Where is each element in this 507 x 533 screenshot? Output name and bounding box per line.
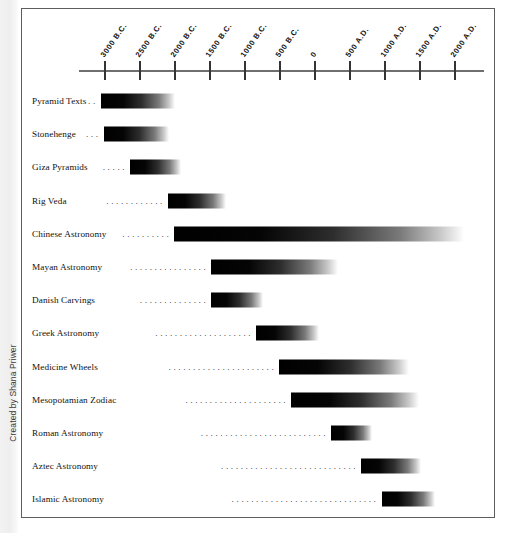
axis-tick: [104, 61, 106, 80]
axis-tick-label: 2500 B.C.: [134, 21, 164, 59]
timeline-chart-frame: 3000 B.C.2500 B.C.2000 B.C.1500 B.C.1000…: [21, 8, 495, 518]
timeline-row[interactable]: Roman Astronomy.........................…: [22, 423, 496, 443]
timeline-row-label: Giza Pyramids: [32, 162, 88, 172]
axis-tick-label-wrap: 1000 A.D.: [386, 9, 387, 59]
timeline-leader-dots: ..: [88, 97, 98, 106]
timeline-row-label: Mayan Astronomy: [32, 262, 102, 272]
timeline-row[interactable]: Mayan Astronomy................: [22, 257, 496, 277]
timeline-leader-dots: ..............................: [232, 495, 379, 504]
axis-tick-label: 1000 B.C.: [239, 21, 269, 59]
timeline-bar[interactable]: [211, 293, 263, 308]
timeline-leader-dots: ................: [130, 263, 208, 272]
timeline-leader-dots: ..........................: [201, 429, 328, 438]
axis-tick-label: 2000 A.D.: [449, 22, 479, 59]
timeline-bar[interactable]: [104, 127, 169, 142]
timeline-row[interactable]: Danish Carvings..............: [22, 290, 496, 310]
timeline-row-label: Pyramid Texts: [32, 96, 86, 106]
timeline-row[interactable]: Rig Veda............: [22, 191, 496, 211]
timeline-bar[interactable]: [331, 426, 372, 441]
axis-tick-label-wrap: 2000 A.D.: [456, 9, 457, 59]
timeline-bar[interactable]: [361, 459, 421, 474]
axis-tick: [384, 61, 386, 80]
axis-tick-label-wrap: 2000 B.C.: [176, 9, 177, 59]
timeline-row[interactable]: Chinese Astronomy..........: [22, 224, 496, 244]
timeline-row[interactable]: Giza Pyramids.....: [22, 157, 496, 177]
axis-tick: [314, 61, 316, 80]
timeline-row-label: Stonehenge: [32, 129, 76, 139]
axis-tick-label: 500 A.D.: [344, 26, 371, 59]
timeline-leader-dots: ..........: [122, 229, 171, 238]
timeline-row-label: Aztec Astronomy: [32, 461, 98, 471]
axis-tick-label: 1500 B.C.: [204, 21, 234, 59]
axis-tick-label-wrap: 3000 B.C.: [106, 9, 107, 59]
axis-tick-label-wrap: 500 A.D.: [351, 9, 352, 59]
timeline-leader-dots: .....: [103, 163, 127, 172]
axis-tick-label: 1500 A.D.: [414, 22, 444, 59]
timeline-leader-dots: ............: [106, 196, 165, 205]
axis-tick: [349, 61, 351, 80]
timeline-rows: Pyramid Texts..Stonehenge...Giza Pyramid…: [22, 81, 496, 517]
timeline-bar[interactable]: [291, 392, 419, 407]
timeline-row[interactable]: Medicine Wheels......................: [22, 357, 496, 377]
axis-tick: [454, 61, 456, 80]
timeline-row[interactable]: Islamic Astronomy.......................…: [22, 489, 496, 509]
timeline-row-label: Islamic Astronomy: [32, 494, 104, 504]
axis-tick: [279, 61, 281, 80]
axis-tick: [139, 61, 141, 80]
timeline-row-label: Medicine Wheels: [32, 362, 98, 372]
axis-tick-label: 2000 B.C.: [169, 21, 199, 59]
axis-tick: [419, 61, 421, 80]
timeline-bar[interactable]: [130, 160, 181, 175]
time-axis: 3000 B.C.2500 B.C.2000 B.C.1500 B.C.1000…: [22, 9, 496, 81]
axis-tick-label: 500 B.C.: [274, 25, 301, 59]
axis-tick: [174, 61, 176, 80]
axis-tick: [244, 61, 246, 80]
credit-text: Created by Shana Priwer: [8, 328, 18, 458]
axis-tick-label-wrap: 1000 B.C.: [246, 9, 247, 59]
axis-tick-label-wrap: 1500 A.D.: [421, 9, 422, 59]
timeline-leader-dots: ....................: [155, 329, 253, 338]
timeline-leader-dots: ............................: [221, 462, 358, 471]
timeline-leader-dots: ..............: [140, 296, 209, 305]
axis-tick-label-wrap: 0: [316, 9, 317, 59]
timeline-leader-dots: ...: [86, 130, 101, 139]
timeline-leader-dots: .....................: [185, 395, 288, 404]
timeline-row-label: Greek Astronomy: [32, 328, 99, 338]
timeline-row-label: Mesopotamian Zodiac: [32, 395, 116, 405]
timeline-row[interactable]: Mesopotamian Zodiac.....................: [22, 390, 496, 410]
timeline-row-label: Danish Carvings: [32, 295, 95, 305]
timeline-bar[interactable]: [211, 260, 338, 275]
timeline-row[interactable]: Pyramid Texts..: [22, 91, 496, 111]
axis-tick-label: 1000 A.D.: [379, 22, 409, 59]
timeline-row-label: Roman Astronomy: [32, 428, 103, 438]
axis-tick-label-wrap: 500 B.C.: [281, 9, 282, 59]
axis-tick: [209, 61, 211, 80]
timeline-row-label: Rig Veda: [32, 196, 67, 206]
timeline-bar[interactable]: [168, 193, 226, 208]
timeline-leader-dots: ......................: [169, 362, 277, 371]
axis-tick-label-wrap: 1500 B.C.: [211, 9, 212, 59]
timeline-row-label: Chinese Astronomy: [32, 229, 106, 239]
timeline-bar[interactable]: [279, 359, 409, 374]
timeline-bar[interactable]: [174, 226, 464, 241]
timeline-row[interactable]: Stonehenge...: [22, 124, 496, 144]
axis-tick-label: 0: [309, 50, 319, 59]
timeline-row[interactable]: Aztec Astronomy.........................…: [22, 456, 496, 476]
axis-tick-label: 3000 B.C.: [99, 21, 129, 59]
timeline-bar[interactable]: [101, 94, 175, 109]
timeline-bar[interactable]: [382, 492, 436, 507]
axis-tick-label-wrap: 2500 B.C.: [141, 9, 142, 59]
timeline-row[interactable]: Greek Astronomy....................: [22, 323, 496, 343]
timeline-bar[interactable]: [256, 326, 319, 341]
